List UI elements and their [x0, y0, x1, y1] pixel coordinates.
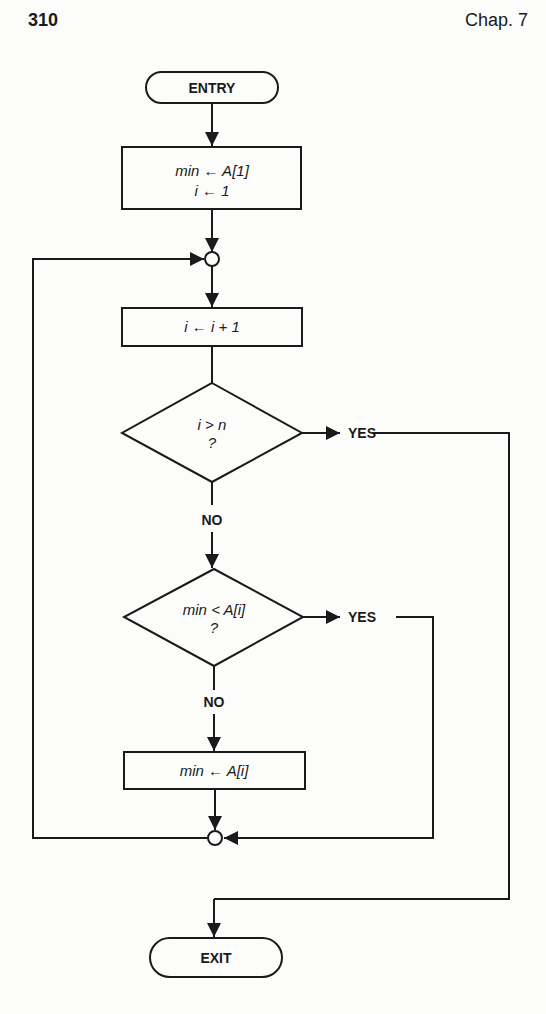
- flowchart: ENTRY min ← A[1] i ← 1 i ← i + 1 i > n ?…: [0, 0, 546, 1014]
- decision2-yes-label: YES: [348, 609, 376, 625]
- entry-label: ENTRY: [189, 80, 237, 96]
- decision1-line1: i > n: [198, 416, 227, 433]
- init-line2: i ← 1: [194, 182, 229, 199]
- decision1-line2: ?: [208, 434, 217, 451]
- init-line1: min ← A[1]: [175, 162, 249, 179]
- assign-label: min ← A[i]: [180, 762, 249, 779]
- decision2-no-label: NO: [204, 694, 225, 710]
- decision1-yes-label: YES: [348, 425, 376, 441]
- exit-label: EXIT: [200, 950, 232, 966]
- loop-junction-bottom: [208, 831, 222, 845]
- decision2-line2: ?: [210, 619, 219, 636]
- loop-junction-top: [205, 252, 219, 266]
- decision1-no-label: NO: [202, 512, 223, 528]
- decision2-line1: min < A[i]: [183, 601, 246, 618]
- increment-label: i ← i + 1: [184, 318, 239, 335]
